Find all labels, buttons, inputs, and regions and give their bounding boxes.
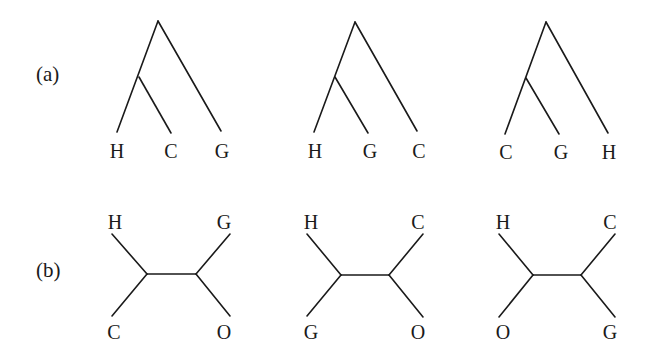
- leaf-label: H: [304, 211, 318, 233]
- leaf-label: G: [603, 321, 617, 343]
- panel-label-b: (b): [36, 258, 61, 282]
- leaf-label: C: [107, 321, 120, 343]
- leaf-label: O: [217, 321, 231, 343]
- leaf-label: O: [411, 321, 425, 343]
- unrooted-tree-3: H C O G: [496, 211, 617, 343]
- phylogeny-figure: (a) (b) H C G H G C C G H H G C O: [0, 0, 648, 351]
- leaf-label: G: [363, 140, 377, 162]
- rooted-tree-3: C G H: [499, 22, 616, 163]
- leaf-label: C: [499, 141, 512, 163]
- leaf-label: H: [308, 140, 322, 162]
- leaf-label: C: [411, 211, 424, 233]
- leaf-label: H: [602, 141, 616, 163]
- rooted-tree-1: H C G: [110, 21, 229, 162]
- panel-label-a: (a): [36, 62, 59, 86]
- unrooted-tree-1: H G C O: [107, 211, 231, 343]
- leaf-label: C: [164, 140, 177, 162]
- leaf-label: G: [215, 140, 229, 162]
- leaf-label: O: [496, 321, 510, 343]
- leaf-label: H: [110, 140, 124, 162]
- leaf-label: G: [217, 211, 231, 233]
- unrooted-tree-2: H C G O: [304, 211, 425, 343]
- leaf-label: H: [108, 211, 122, 233]
- leaf-label: G: [304, 321, 318, 343]
- rooted-tree-2: H G C: [308, 22, 426, 162]
- leaf-label: C: [412, 140, 425, 162]
- leaf-label: H: [496, 211, 510, 233]
- leaf-label: C: [603, 211, 616, 233]
- leaf-label: G: [554, 141, 568, 163]
